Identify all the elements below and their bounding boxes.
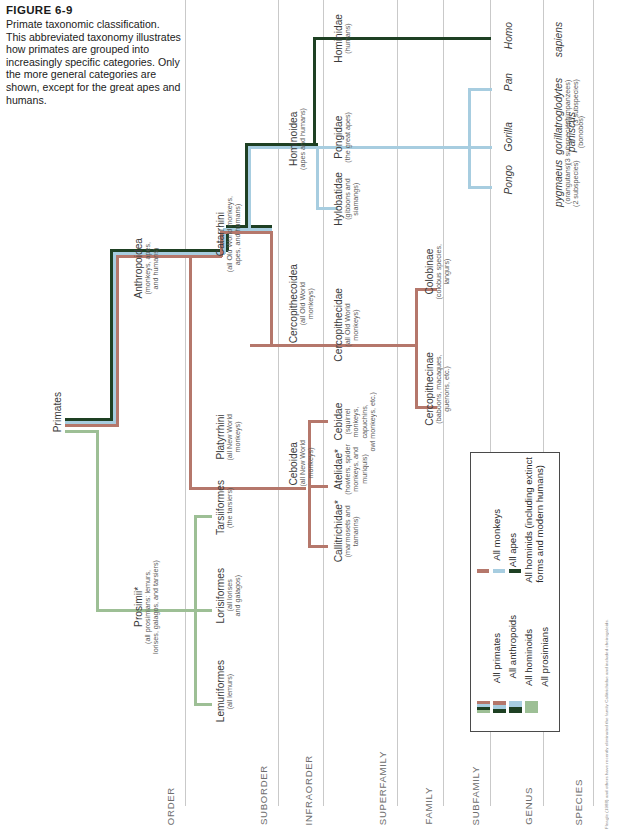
- legend-swatch-all-prosimians: [525, 701, 538, 713]
- column-header-genus: GENUS: [523, 787, 534, 825]
- node-prosimii: Prosimii* (all prosimians: lemurs, loris…: [133, 560, 161, 654]
- node-callitrichidae: Callitrichidae* (marmosets and tamarins): [333, 500, 361, 562]
- tree-line-anthro-v-hominids: [110, 249, 113, 421]
- tree-line-pongidae-to-genus: [338, 146, 470, 149]
- column-rule: [278, 0, 279, 806]
- tree-line-callitrichidae-arm: [308, 545, 328, 548]
- legend-label-all-monkeys: All monkeys: [491, 509, 502, 561]
- node-homo: Homo: [503, 22, 514, 49]
- legend-swatch-all-hominoids: [509, 701, 522, 713]
- tree-line-primates-root-hominids: [65, 418, 98, 421]
- legend: All primates All anthropoids All hominoi…: [470, 452, 560, 732]
- tree-line-tarsiiformes: [194, 515, 212, 518]
- tree-line-genus-bracket: [468, 88, 471, 188]
- node-hominidae: Hominidae (humans): [333, 14, 352, 63]
- tree-line-homo-arm: [343, 37, 491, 40]
- node-cercopithecoidea: Cercopithecoidea (all Old World monkeys): [288, 264, 316, 343]
- node-species-paniscus: paniscus (bonobos): [566, 112, 585, 152]
- figure-caption: FIGURE 6-9 Primate taxonomic classificat…: [6, 4, 182, 106]
- node-atelidae: Atelidae* (howlers, spider monkeys, and …: [333, 444, 369, 495]
- node-lorisiformes: Lorisiformes (all lorises and galagos): [215, 568, 243, 623]
- node-cebidae: Cebidae (squirrel monkeys, capuchins, ow…: [333, 392, 377, 452]
- column-header-species: SPECIES: [573, 779, 584, 826]
- node-species-sapiens: sapiens: [553, 22, 564, 57]
- figure-number: FIGURE 6-9: [6, 4, 182, 16]
- node-ceboidea: Ceboidea (all New World monkeys): [288, 440, 316, 487]
- tree-line-hominoidea-v-hominids: [245, 143, 248, 228]
- node-gorilla: Gorilla: [503, 122, 514, 151]
- tree-line-lemuriformes: [194, 703, 212, 706]
- column-header-order: ORDER: [165, 787, 176, 825]
- tree-line-gorilla-arm: [468, 146, 492, 149]
- node-colobinae: Colobinae (colobus species, langurs): [424, 244, 452, 300]
- tree-line-anthro-v-apes: [113, 252, 116, 424]
- legend-swatch-all-primates: [477, 701, 490, 713]
- tree-line-prosimii-stem: [176, 609, 195, 612]
- tree-line-hominoidea-v-apes: [248, 146, 251, 231]
- legend-label-all-hominids: All hominids (including extinct forms an…: [523, 457, 545, 583]
- legend-label-all-primates: All primates: [491, 633, 502, 683]
- tree-line-ceboidea-out: [278, 487, 306, 490]
- figure-footnote: Fleagle (1988) and others have recently …: [604, 619, 609, 829]
- node-pongo: Pongo: [503, 165, 514, 194]
- tree-line-cercopithecoidea-h: [250, 344, 272, 347]
- tree-line-pan-arm: [468, 88, 492, 91]
- tree-line-lorisiformes: [194, 609, 212, 612]
- legend-label-all-anthropoids: All anthropoids: [507, 615, 518, 678]
- node-hylobatidae: Hylobatidae (gibbons and siamangs): [333, 172, 361, 226]
- legend-swatch-all-hominids: [509, 569, 521, 573]
- tree-line-prosimii-riser: [96, 430, 99, 612]
- tree-line-cercopithecoidea-drop: [270, 231, 273, 346]
- node-platyrrhini: Platyrrhini (all New World monkeys): [215, 414, 243, 461]
- column-header-infraorder: INFRAORDER: [303, 755, 314, 825]
- column-header-family: FAMILY: [423, 787, 434, 825]
- node-cercopithecinae: Cercopithecinae (baboons, macaques, guen…: [424, 352, 452, 426]
- tree-line-hominidae-riser: [313, 37, 316, 145]
- legend-label-all-hominoids: All hominoids: [523, 629, 534, 686]
- node-anthropoidea: Anthropoidea (monkeys, apes, and humans): [133, 238, 161, 299]
- column-rule: [397, 0, 398, 806]
- column-rule: [323, 0, 324, 806]
- node-species-pygmaeus: pygmaeus (orangutans) (2 subspecies): [553, 160, 581, 207]
- column-header-suborder: SUBORDER: [258, 765, 269, 825]
- column-header-superfamily: SUPERFAMILY: [377, 751, 388, 825]
- legend-swatch-all-apes: [493, 569, 505, 573]
- tree-line-platyrrhini-drop: [189, 255, 192, 489]
- tree-line-cebidae-arm: [308, 420, 328, 423]
- node-cercopithecidae: Cercopithecidae (all Old World monkeys): [333, 288, 361, 362]
- legend-swatch-all-monkeys: [477, 569, 489, 573]
- figure-caption-text: Primate taxonomic classification. This a…: [6, 18, 182, 106]
- tree-line-hominoidea-h-apes: [248, 146, 318, 149]
- tree-line-hominoidea-fam-v-apes: [316, 146, 319, 209]
- column-rule: [593, 0, 594, 806]
- tree-line-cercopithecoidea-out: [270, 344, 310, 347]
- tree-line-anthro-h-monkeys: [96, 424, 118, 427]
- tree-line-cercopithecidae-out: [397, 344, 417, 347]
- node-catarrhini: Catarrhini (all Old World monkeys, apes,…: [215, 196, 243, 272]
- node-lemuriformes: Lemuriformes (all lemurs): [215, 660, 234, 722]
- legend-label-all-apes: All apes: [507, 533, 518, 567]
- column-header-subfamily: SUBFAMILY: [470, 766, 481, 825]
- tree-line-platyrrhini-out: [189, 487, 208, 490]
- node-primates: Primates: [52, 392, 63, 432]
- node-hominoidea: Hominoidea (apes and humans): [288, 108, 307, 170]
- node-pan: Pan: [503, 73, 514, 91]
- tree-line-primates-root-apes: [65, 421, 98, 424]
- tree-line-order-prosimian: [65, 430, 98, 433]
- node-pongidae: Pongidae (the great apes): [333, 112, 352, 163]
- tree-line-primates-root-monkeys: [65, 424, 98, 427]
- legend-label-all-prosimians: All prosimians: [539, 627, 550, 687]
- tree-line-cercopithecidae-bracket: [415, 288, 418, 408]
- legend-swatch-all-anthropoids: [493, 701, 506, 713]
- node-tarsiiformes: Tarsiiformes (the tarsiers): [215, 480, 234, 535]
- tree-line-pongo-arm: [468, 186, 492, 189]
- tree-line-anthro-v-monkeys: [116, 255, 119, 427]
- column-rule: [185, 0, 186, 806]
